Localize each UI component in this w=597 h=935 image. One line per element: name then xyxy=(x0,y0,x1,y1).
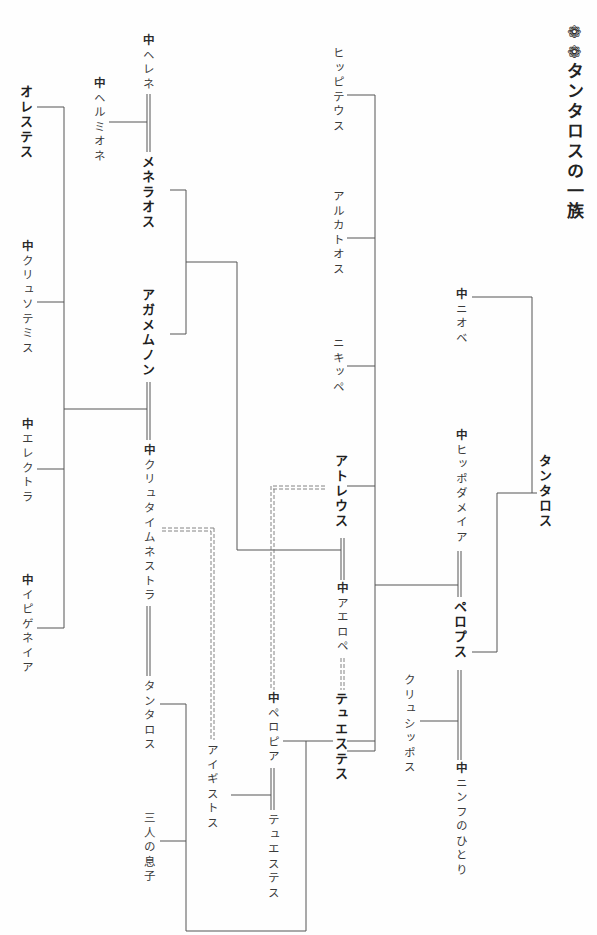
female-marker-icon: 中 xyxy=(266,692,280,707)
person-tantalus-jr: タンタロス xyxy=(142,678,156,755)
person-aegisthus: アイギストス xyxy=(205,742,219,833)
female-marker-icon: 中 xyxy=(20,418,34,433)
person-chrysippus: クリュシッポス xyxy=(402,672,416,778)
person-pelops: ペロプス xyxy=(452,598,466,662)
person-helen: 中ヘレネ xyxy=(141,32,155,94)
person-niobe: 中ニオベ xyxy=(454,286,468,348)
female-marker-icon: 中 xyxy=(454,429,468,444)
person-thyestes-son: テュエステス xyxy=(266,812,280,903)
person-nicippe: ニキッペ xyxy=(331,335,345,397)
person-three-sons: 三人の息子 xyxy=(142,810,156,887)
family-tree-diagram: ❁❁タンタロスの一族 タンタロス 中ニオベ 中ヒッポダメイア ペロプス クリュシ… xyxy=(0,0,597,935)
female-marker-icon: 中 xyxy=(335,582,349,597)
flower-mark-icon: ❁❁ xyxy=(564,22,584,62)
female-marker-icon: 中 xyxy=(20,240,34,255)
female-marker-icon: 中 xyxy=(454,762,468,777)
person-hermione: 中ヘルミオネ xyxy=(92,75,106,166)
person-chrysothemis: 中クリュソテミス xyxy=(20,238,34,358)
title-text: タンタロスの一族 xyxy=(564,62,584,222)
person-hippodamia: 中ヒッポダメイア xyxy=(454,427,468,547)
person-thyestes: テュエステス xyxy=(333,690,347,784)
person-hippitheus: ヒッピテウス xyxy=(331,45,345,136)
person-menelaus: メネラオス xyxy=(140,153,154,232)
female-marker-icon: 中 xyxy=(141,34,155,49)
person-iphigenia: 中イピゲネイア xyxy=(20,572,34,678)
diagram-title: ❁❁タンタロスの一族 xyxy=(562,22,587,222)
person-aerope: 中アエロペ xyxy=(335,580,349,657)
female-marker-icon: 中 xyxy=(454,288,468,303)
connector-lines xyxy=(0,0,597,935)
person-tantalus: タンタロス xyxy=(537,452,551,531)
female-marker-icon: 中 xyxy=(142,444,156,459)
female-marker-icon: 中 xyxy=(20,574,34,589)
person-orestes: オレステス xyxy=(18,83,32,162)
person-nymph: 中ニンフのひとり xyxy=(454,760,468,880)
person-agamemnon: アガメムノン xyxy=(140,286,154,380)
person-atreus: アトレウス xyxy=(333,452,347,531)
female-marker-icon: 中 xyxy=(92,77,106,92)
person-clytemnestra: 中クリュタイムネストラ xyxy=(142,442,156,606)
person-pelopia: 中ペロピア xyxy=(266,690,280,767)
person-electra: 中エレクトラ xyxy=(20,416,34,507)
person-alcathous: アルカトオス xyxy=(331,188,345,279)
